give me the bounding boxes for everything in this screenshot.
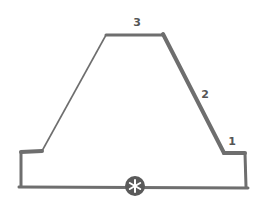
pot-outline-diagram: 3 2 1 [0,0,261,205]
asterisk-icon [125,176,145,196]
segment-2-label: 2 [201,88,209,101]
segment-3-label: 3 [133,16,141,29]
segment-1-label: 1 [228,135,236,148]
left-slant [42,35,106,151]
left-step [21,151,42,152]
right-side [245,153,246,187]
segment-2-slant [163,34,224,153]
